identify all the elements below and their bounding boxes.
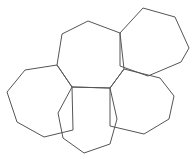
left-heptagon [7, 65, 73, 137]
upper-right-heptagon [120, 8, 189, 76]
bottom-center-heptagon [58, 87, 117, 153]
top-center-heptagon [57, 21, 124, 88]
heptagon-diagram [0, 0, 193, 160]
heptagon-svg-canvas [0, 0, 193, 160]
right-heptagon [110, 69, 174, 134]
polygon-group [7, 8, 189, 153]
